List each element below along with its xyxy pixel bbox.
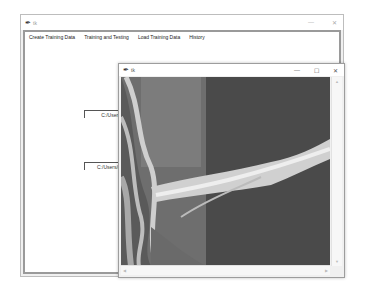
tk-feather-icon: ✒ xyxy=(123,66,129,74)
scroll-right-arrow-icon[interactable]: ▶ xyxy=(325,268,328,273)
minimize-button[interactable]: — xyxy=(308,19,314,26)
popup-titlebar[interactable]: ✒ tk — ☐ ✕ xyxy=(119,64,344,76)
satellite-image-canvas xyxy=(121,77,330,266)
tab-training-and-testing[interactable]: Training and Testing xyxy=(84,33,129,41)
tab-history[interactable]: History xyxy=(189,33,205,41)
image-popup-window: ✒ tk — ☐ ✕ ▲ ▼ ◀ ▶ xyxy=(118,63,345,278)
main-titlebar[interactable]: ✒ tk — ✕ xyxy=(21,15,343,30)
scroll-left-arrow-icon[interactable]: ◀ xyxy=(123,268,126,273)
popup-window-title: tk xyxy=(131,67,135,73)
tab-load-training-data[interactable]: Load Training Data xyxy=(138,33,180,41)
close-button[interactable]: ✕ xyxy=(332,19,337,26)
horizontal-scrollbar[interactable]: ◀ ▶ xyxy=(121,265,330,275)
minimize-button[interactable]: — xyxy=(294,67,300,74)
scroll-up-arrow-icon[interactable]: ▲ xyxy=(335,79,339,84)
river-satellite-image xyxy=(121,77,330,266)
notebook-tabs: Create Training Data Training and Testin… xyxy=(29,33,205,41)
maximize-button[interactable]: ☐ xyxy=(314,67,319,74)
close-button[interactable]: ✕ xyxy=(333,67,338,74)
main-window-title: tk xyxy=(33,20,37,26)
tab-create-training-data[interactable]: Create Training Data xyxy=(29,33,75,41)
tk-feather-icon: ✒ xyxy=(25,19,31,27)
vertical-scrollbar[interactable]: ▲ ▼ xyxy=(331,77,342,266)
scroll-down-arrow-icon[interactable]: ▼ xyxy=(335,259,339,264)
